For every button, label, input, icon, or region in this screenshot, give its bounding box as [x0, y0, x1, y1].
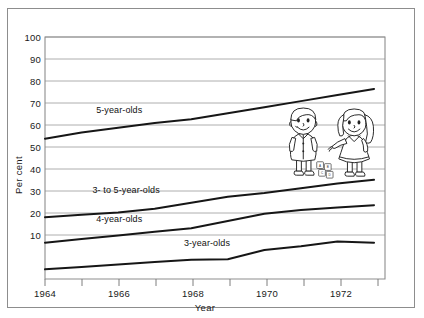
y-tick-label: 100: [25, 32, 41, 43]
y-tick-label: 20: [30, 208, 41, 219]
y-tick-label: 10: [30, 230, 41, 241]
y-tick-label: 50: [30, 142, 41, 153]
x-tick-label: 1972: [330, 288, 352, 299]
x-axis-ticks: 1964 1966 1968 1970 1972: [34, 288, 352, 299]
boy-eye-left: [297, 118, 300, 122]
x-tick-label: 1968: [182, 288, 204, 299]
series-line-5-year-olds: [45, 89, 374, 139]
gridlines: [45, 37, 385, 235]
children-illustration: A B C D: [289, 108, 373, 178]
line-chart: 100 90 80 70 60 50 40 30 20 10 Per cent: [0, 0, 424, 318]
boy-button: [302, 150, 304, 152]
x-tick-label: 1966: [108, 288, 130, 299]
y-tick-label: 30: [30, 186, 41, 197]
girl-eye-left: [348, 120, 351, 124]
y-tick-label: 40: [30, 164, 41, 175]
y-axis-ticks: 100 90 80 70 60 50 40 30 20 10: [25, 32, 41, 241]
y-tick-label: 60: [30, 120, 41, 131]
girl-figure: [328, 109, 373, 176]
block-letter: B: [327, 165, 329, 169]
boy-shoe-left: [294, 171, 304, 175]
y-axis-title: Per cent: [13, 156, 24, 194]
chart-figure: 100 90 80 70 60 50 40 30 20 10 Per cent: [0, 0, 424, 318]
series-label-3-to-5-year-olds: 3- to 5-year-olds: [93, 185, 161, 195]
boy-button: [302, 143, 304, 145]
x-tick-label: 1970: [256, 288, 278, 299]
girl-hair-right: [365, 115, 374, 144]
alphabet-blocks: A B C D: [317, 162, 333, 178]
x-tick-label: 1964: [34, 288, 56, 299]
series-label-5-year-olds: 5-year-olds: [96, 105, 143, 115]
boy-eye-right: [307, 118, 310, 122]
y-tick-label: 80: [30, 76, 41, 87]
block-d: D: [326, 171, 333, 178]
series-labels: 5-year-olds 3- to 5-year-olds 4-year-old…: [93, 105, 231, 248]
block-a: A: [317, 162, 324, 169]
y-tick-label: 90: [30, 54, 41, 65]
x-axis-title: Year: [195, 302, 215, 313]
y-tick-label: 70: [30, 98, 41, 109]
series-line-4-year-olds: [45, 205, 374, 243]
boy-figure: [289, 108, 317, 175]
girl-hair-left: [338, 115, 344, 136]
boy-shoe-right: [305, 171, 315, 175]
girl-eye-right: [358, 120, 361, 124]
block-c: C: [319, 169, 326, 176]
girl-shoe-right: [355, 172, 365, 176]
girl-shoe-left: [345, 172, 355, 176]
x-axis-tickmarks: [45, 279, 378, 286]
series-label-4-year-olds: 4-year-olds: [96, 214, 143, 224]
series-label-3-year-olds: 3-year-olds: [184, 238, 231, 248]
